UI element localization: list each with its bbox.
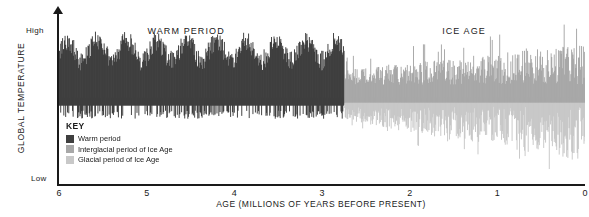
x-axis-line — [57, 184, 585, 186]
x-axis-tick-4: 4 — [232, 188, 237, 198]
legend-swatch-icon — [66, 135, 74, 143]
chart-figure: High Low GLOBAL TEMPERATURE AGE (MILLION… — [0, 0, 589, 217]
x-axis-tick-2: 2 — [407, 188, 412, 198]
x-axis-tick-0: 0 — [582, 188, 587, 198]
x-axis-tick-3: 3 — [319, 188, 324, 198]
y-axis-high-label: High — [26, 26, 44, 35]
x-axis-tick-1: 1 — [495, 188, 500, 198]
legend-item: Glacial period of Ice Age — [66, 155, 173, 164]
x-axis-tick-5: 5 — [144, 188, 149, 198]
legend-item-label: Interglacial period of Ice Age — [78, 145, 173, 154]
legend-item: Interglacial period of Ice Age — [66, 145, 173, 154]
legend-swatch-icon — [66, 145, 74, 153]
x-axis-title: AGE (MILLIONS OF YEARS BEFORE PRESENT) — [57, 199, 585, 209]
legend-swatch-icon — [66, 156, 74, 164]
legend-item: Warm period — [66, 134, 173, 143]
legend-title: KEY — [66, 121, 173, 131]
y-axis-title: GLOBAL TEMPERATURE — [16, 33, 26, 163]
chart-legend: KEY Warm periodInterglacial period of Ic… — [66, 121, 173, 166]
x-axis-tick-6: 6 — [56, 188, 61, 198]
y-axis-low-label: Low — [31, 174, 47, 183]
legend-item-label: Warm period — [78, 134, 121, 143]
legend-item-label: Glacial period of Ice Age — [78, 155, 159, 164]
